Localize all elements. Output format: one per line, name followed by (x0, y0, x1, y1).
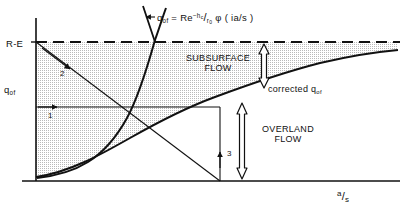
y-axis-title-subscript: of (10, 89, 16, 96)
subsurface-flow-line-1: SUBSURFACE (186, 53, 250, 63)
overland-flow-line-1: OVERLAND (262, 124, 314, 134)
subsurface-flow-label: SUBSURFACE FLOW (182, 54, 254, 73)
x-axis-denominator: s (345, 195, 349, 204)
corrected-curve-label: corrected qof (268, 85, 322, 95)
overland-flow-arrow (237, 103, 247, 179)
corrected-curve-subscript: of (316, 89, 322, 95)
figure-canvas (0, 0, 405, 218)
overland-flow-label: OVERLAND FLOW (253, 125, 323, 144)
x-axis-label: a/s (337, 190, 349, 205)
hydrograph-figure: R-E qof qof = Re−hc/r0 φ ( ia/s ) 1 2 3 … (0, 0, 405, 218)
curve-1-label: 1 (48, 112, 53, 121)
overland-flow-line-2: FLOW (274, 134, 301, 144)
y-axis-max-label: R-E (6, 39, 23, 49)
equation-leader-line (143, 6, 155, 42)
q-of-equation: qof = Re−hc/r0 φ ( ia/s ) (157, 12, 253, 25)
subsurface-flow-line-2: FLOW (204, 63, 231, 73)
y-axis-title: qof (4, 85, 15, 97)
corrected-curve-word: corrected (268, 84, 308, 94)
curve-3-label: 3 (227, 150, 232, 159)
curve-2-label: 2 (60, 70, 65, 79)
